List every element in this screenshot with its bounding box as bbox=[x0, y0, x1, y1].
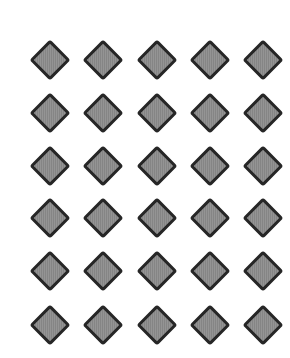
diamond-shape bbox=[242, 39, 283, 80]
diamond-shape bbox=[242, 250, 283, 291]
diamond-shape bbox=[189, 92, 230, 133]
diamond-shape bbox=[189, 197, 230, 238]
diamond-shape bbox=[29, 250, 70, 291]
diamond-shape bbox=[136, 92, 177, 133]
diamond-shape bbox=[82, 39, 123, 80]
diamond-shape bbox=[136, 145, 177, 186]
diamond-shape bbox=[242, 304, 283, 345]
diamond-shape bbox=[242, 145, 283, 186]
diamond-shape bbox=[136, 39, 177, 80]
diamond-shape bbox=[136, 197, 177, 238]
diamond-shape bbox=[136, 304, 177, 345]
diamond-shape bbox=[82, 145, 123, 186]
diamond-shape bbox=[242, 92, 283, 133]
diamond-shape bbox=[82, 250, 123, 291]
diamond-shape bbox=[82, 197, 123, 238]
diamond-shape bbox=[29, 304, 70, 345]
diamond-shape bbox=[136, 250, 177, 291]
diamond-shape bbox=[189, 39, 230, 80]
diamond-grid bbox=[0, 0, 290, 358]
diamond-shape bbox=[189, 304, 230, 345]
diamond-shape bbox=[29, 197, 70, 238]
diamond-shape bbox=[29, 145, 70, 186]
diamond-shape bbox=[189, 250, 230, 291]
diamond-shape bbox=[82, 304, 123, 345]
diamond-shape bbox=[242, 197, 283, 238]
diamond-shape bbox=[29, 39, 70, 80]
diamond-shape bbox=[29, 92, 70, 133]
diamond-shape bbox=[189, 145, 230, 186]
diamond-shape bbox=[82, 92, 123, 133]
